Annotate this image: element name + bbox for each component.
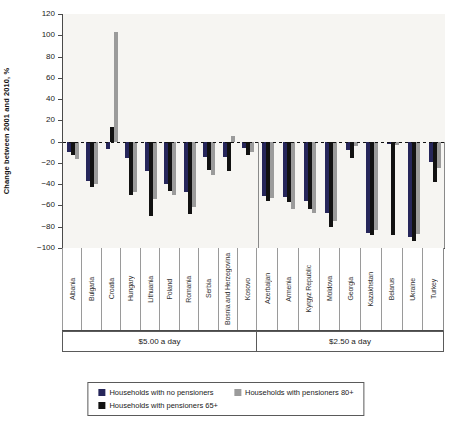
y-axis-tick-label: −100 — [25, 244, 55, 252]
country-label-cell: Lithuania — [140, 248, 159, 330]
country-label-cell: Azerbaijan — [256, 248, 277, 330]
country-labels-group-2: AzerbaijanArmeniaKyrgyz RepublicMoldovaG… — [256, 248, 443, 330]
bar — [437, 142, 441, 169]
bar — [374, 142, 378, 230]
y-axis-tick-label: 60 — [25, 74, 55, 82]
pension-change-bar-chart: Change between 2001 and 2010, % 12010080… — [0, 0, 452, 427]
y-axis-tick-label: 0 — [25, 138, 55, 146]
country-label: Azerbaijan — [264, 273, 271, 304]
plot-area — [62, 14, 445, 249]
country-label: Romania — [185, 276, 192, 303]
country-label-cell: Kazakhstan — [360, 248, 381, 330]
bar — [416, 142, 420, 235]
y-axis-tick-label: 40 — [25, 95, 55, 103]
country-label-cell: Hungary — [120, 248, 139, 330]
country-label-cell: Ukraine — [402, 248, 423, 330]
country-label-cell: Albania — [62, 248, 81, 330]
bar — [133, 142, 137, 192]
country-label: Croatia — [108, 278, 115, 299]
country-labels-group-1: AlbaniaBulgariaCroatiaHungaryLithuaniaPo… — [62, 248, 256, 330]
country-label: Lithuania — [147, 276, 154, 303]
bar — [211, 142, 215, 175]
legend-swatch-pensioners-65plus — [98, 402, 105, 409]
bar — [172, 142, 176, 195]
zero-baseline — [63, 142, 445, 143]
bar — [312, 142, 316, 213]
plot-right-border — [444, 142, 445, 248]
bar — [227, 142, 231, 172]
country-labels-row: AlbaniaBulgariaCroatiaHungaryLithuaniaPo… — [62, 248, 444, 331]
y-axis-tick-label: 120 — [25, 10, 55, 18]
y-axis-title: Change between 2001 and 2010, % — [2, 14, 16, 248]
country-label: Serbia — [205, 279, 212, 298]
bar — [291, 142, 295, 209]
country-label-cell: Bulgaria — [81, 248, 100, 330]
legend-label-no-pensioners: Households with no pensioners — [109, 389, 213, 397]
country-label-cell: Croatia — [101, 248, 120, 330]
country-label: Moldova — [326, 276, 333, 301]
country-label: Bosnia and Herzegovina — [224, 253, 231, 325]
country-label-cell: Turkey — [422, 248, 443, 330]
country-label-cell: Poland — [159, 248, 178, 330]
bar — [192, 142, 196, 207]
country-label: Belarus — [388, 278, 395, 300]
country-label: Kyrgyz Republic — [305, 265, 312, 313]
country-label-cell: Romania — [179, 248, 198, 330]
country-label-cell: Kyrgyz Republic — [298, 248, 319, 330]
y-axis-tick-label: 80 — [25, 53, 55, 61]
legend-swatch-no-pensioners — [98, 389, 105, 396]
legend-swatch-pensioners-80plus — [234, 389, 241, 396]
income-group-label-2-50-dollars: $2.50 a day — [257, 331, 444, 352]
country-label: Ukraine — [409, 278, 416, 301]
y-axis-tick-label: −60 — [25, 201, 55, 209]
country-label: Turkey — [430, 279, 437, 299]
bar — [153, 142, 157, 199]
bar — [114, 32, 118, 142]
country-label-cell: Georgia — [339, 248, 360, 330]
income-group-label-5-dollars: $5.00 a day — [62, 331, 257, 352]
country-label: Georgia — [347, 277, 354, 301]
bar — [391, 142, 395, 236]
income-groups-row: $5.00 a day $2.50 a day — [62, 331, 444, 352]
legend-item-no-pensioners: Households with no pensioners — [98, 389, 218, 397]
bar — [270, 142, 274, 198]
country-label: Albania — [69, 278, 76, 300]
country-label-cell: Armenia — [277, 248, 298, 330]
y-axis-tick-label: −40 — [25, 180, 55, 188]
bar — [333, 142, 337, 222]
y-axis-tick-label: 100 — [25, 31, 55, 39]
bar — [94, 142, 98, 185]
legend: Households with no pensioners Households… — [87, 382, 364, 416]
bar — [75, 142, 79, 159]
country-label: Kosovo — [244, 278, 251, 300]
panel-separator-line — [258, 142, 259, 248]
country-label-cell: Moldova — [319, 248, 340, 330]
country-label-cell: Kosovo — [237, 248, 256, 330]
country-label: Poland — [166, 279, 173, 300]
country-label: Hungary — [127, 276, 134, 301]
bar — [250, 142, 254, 153]
country-label-cell: Bosnia and Herzegovina — [218, 248, 237, 330]
legend-label-pensioners-65plus: Households with pensioners 65+ — [109, 402, 218, 410]
y-axis-tick-label: −20 — [25, 159, 55, 167]
y-axis-tick-label: −80 — [25, 223, 55, 231]
legend-item-pensioners-80plus: Households with pensioners 80+ — [234, 389, 354, 397]
country-label-cell: Belarus — [381, 248, 402, 330]
country-label: Bulgaria — [88, 277, 95, 301]
country-label: Kazakhstan — [367, 272, 374, 307]
country-label: Armenia — [285, 277, 292, 302]
country-label-cell: Serbia — [198, 248, 217, 330]
legend-label-pensioners-80plus: Households with pensioners 80+ — [245, 389, 354, 397]
legend-item-pensioners-65plus: Households with pensioners 65+ — [98, 402, 218, 410]
bar — [106, 142, 110, 149]
y-axis-tick-label: 20 — [25, 116, 55, 124]
